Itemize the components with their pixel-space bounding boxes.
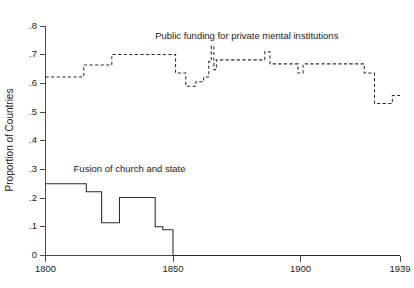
y-tick-label: 0	[32, 249, 37, 260]
annotation-group: Public funding for private mental instit…	[74, 30, 339, 174]
y-axis-group: 0.1.2.3.4.5.6.7.8 Proportion of Countrie…	[4, 20, 46, 261]
x-tick-label: 1850	[162, 263, 183, 274]
x-tick-label: 1939	[389, 263, 410, 274]
series-annotation: Public funding for private mental instit…	[155, 30, 338, 41]
y-tick-label: .2	[29, 192, 37, 203]
series-line-dashed	[46, 46, 401, 103]
y-axis-title: Proportion of Countries	[4, 89, 15, 192]
x-axis-group: 1800185019001939	[35, 256, 411, 275]
y-tick-label: .7	[29, 48, 37, 59]
x-tick-label: 1900	[290, 263, 311, 274]
y-tick-label: .4	[29, 134, 37, 145]
series-group	[46, 46, 401, 255]
chart-canvas: 0.1.2.3.4.5.6.7.8 Proportion of Countrie…	[0, 0, 414, 288]
x-tick-group: 1800185019001939	[35, 256, 411, 275]
y-tick-label: .3	[29, 163, 37, 174]
y-tick-group: 0.1.2.3.4.5.6.7.8	[29, 20, 45, 261]
y-tick-label: .6	[29, 77, 37, 88]
chart-figure: 0.1.2.3.4.5.6.7.8 Proportion of Countrie…	[0, 0, 414, 288]
series-line-solid	[46, 184, 401, 256]
series-annotation: Fusion of church and state	[74, 163, 186, 174]
y-tick-label: .5	[29, 106, 37, 117]
y-tick-label: .8	[29, 20, 37, 31]
x-tick-label: 1800	[35, 263, 56, 274]
y-tick-label: .1	[29, 220, 37, 231]
